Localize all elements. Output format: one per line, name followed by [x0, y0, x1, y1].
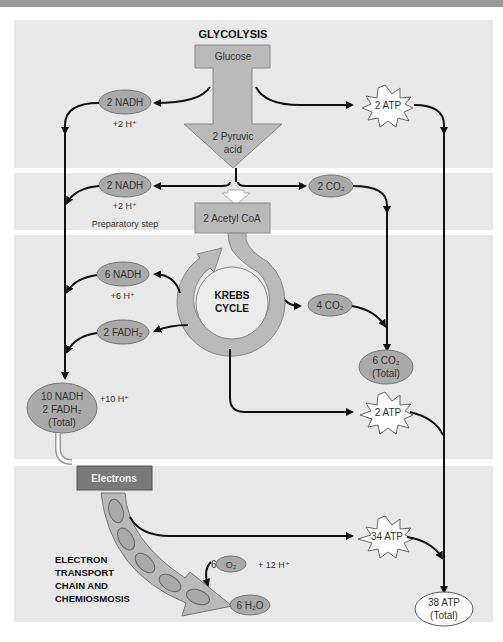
svg-text:4 CO₂: 4 CO₂ — [316, 300, 343, 311]
svg-text:2 ATP: 2 ATP — [375, 407, 402, 418]
svg-text:Electrons: Electrons — [91, 473, 137, 484]
svg-text:2 ATP: 2 ATP — [375, 100, 402, 111]
svg-text:6 NADH: 6 NADH — [105, 269, 142, 280]
krebs-label-1: KREBS — [214, 290, 249, 301]
svg-text:(Total): (Total) — [430, 610, 458, 621]
svg-text:2 FADH₂: 2 FADH₂ — [43, 404, 82, 415]
etc-label-3: CHAIN AND — [55, 580, 108, 591]
glyco-h-label: +2 H⁺ — [113, 119, 137, 129]
svg-text:6 CO₂: 6 CO₂ — [372, 355, 399, 366]
etc-label-1: ELECTRON — [55, 554, 107, 565]
svg-text:2 Acetyl CoA: 2 Acetyl CoA — [203, 213, 261, 224]
glucose-label: Glucose — [215, 51, 252, 62]
etc-label-2: TRANSPORT — [55, 567, 114, 578]
svg-text:O₂: O₂ — [226, 560, 237, 570]
glycolysis-title: GLYCOLYSIS — [199, 28, 268, 40]
pyruvic-label-2: acid — [224, 144, 242, 155]
svg-text:6 H₂O: 6 H₂O — [236, 600, 263, 611]
pyruvic-label-1: 2 Pyruvic — [212, 131, 253, 142]
preparatory-step-label: Preparatory step — [92, 219, 159, 229]
o2-h-label: + 12 H⁺ — [258, 560, 290, 570]
svg-text:34 ATP: 34 ATP — [371, 531, 403, 542]
krebs-label-2: CYCLE — [215, 303, 249, 314]
total-h-label: +10 H⁺ — [100, 394, 129, 404]
krebs-h-label: +6 H⁺ — [111, 291, 135, 301]
prep-h-label: +2 H⁺ — [113, 201, 137, 211]
respiration-diagram: GLYCOLYSIS Glucose 2 Pyruvic acid 2 NADH… — [0, 0, 503, 642]
svg-text:2 NADH: 2 NADH — [107, 180, 144, 191]
svg-text:38 ATP: 38 ATP — [428, 597, 460, 608]
svg-text:2 NADH: 2 NADH — [107, 97, 144, 108]
svg-text:(Total): (Total) — [48, 417, 76, 428]
svg-text:10 NADH: 10 NADH — [41, 391, 83, 402]
svg-text:2 FADH₂: 2 FADH₂ — [104, 327, 143, 338]
svg-text:2 CO₂: 2 CO₂ — [317, 181, 344, 192]
svg-text:(Total): (Total) — [372, 368, 400, 379]
etc-label-4: CHEMIOSMOSIS — [55, 593, 130, 604]
